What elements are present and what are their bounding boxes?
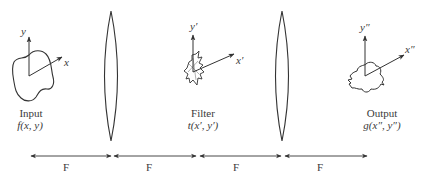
input-plane: y x Input f(x, y) xyxy=(12,25,69,132)
output-plane: y″ x″ Output g(x″, y″) xyxy=(348,21,415,132)
distance-label-2: F xyxy=(146,161,152,173)
distance-label-1: F xyxy=(63,161,69,173)
distance-markers: F F F F xyxy=(31,156,367,173)
input-function-label: f(x, y) xyxy=(17,119,43,132)
optical-4f-diagram: y x Input f(x, y) y′ x′ Filter t(x′, y′)… xyxy=(0,0,428,177)
output-x-axis-label: x″ xyxy=(404,43,415,55)
filter-x-axis-label: x′ xyxy=(235,54,244,66)
output-object-shape xyxy=(348,62,384,92)
output-x-axis xyxy=(365,55,404,76)
filter-function-label: t(x′, y′) xyxy=(188,119,219,132)
input-x-axis xyxy=(29,57,62,76)
input-object-shape xyxy=(12,51,53,101)
input-x-axis-label: x xyxy=(63,56,69,68)
output-y-axis-label: y″ xyxy=(359,21,370,33)
filter-plane: y′ x′ Filter t(x′, y′) xyxy=(184,20,244,132)
input-y-axis-label: y xyxy=(20,25,26,37)
lens-1 xyxy=(105,11,118,141)
distance-label-4: F xyxy=(317,161,323,173)
filter-y-axis-label: y′ xyxy=(189,20,198,32)
lens-2 xyxy=(276,11,289,141)
output-title: Output xyxy=(367,107,398,119)
distance-label-3: F xyxy=(233,161,239,173)
output-function-label: g(x″, y″) xyxy=(363,119,401,132)
filter-title: Filter xyxy=(191,107,215,119)
input-title: Input xyxy=(19,107,42,119)
